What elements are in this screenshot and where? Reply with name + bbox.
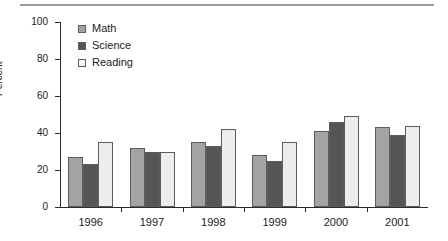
x-label-1998: 1998 <box>183 216 243 228</box>
legend-item-science: Science <box>78 38 133 53</box>
x-label-2001: 2001 <box>367 216 427 228</box>
bar-reading-1999 <box>282 142 297 207</box>
bar-math-1997 <box>130 148 145 207</box>
y-tick-label-60: 60 <box>14 91 48 101</box>
bar-science-2001 <box>390 135 405 207</box>
legend-item-reading: Reading <box>78 55 133 70</box>
x-tick-1997 <box>121 208 122 212</box>
y-tick-label-20: 20 <box>14 165 48 175</box>
y-tick-label-40: 40 <box>14 128 48 138</box>
bar-reading-1996 <box>98 142 113 207</box>
bar-math-1996 <box>68 157 83 207</box>
legend-label-reading: Reading <box>92 57 133 68</box>
legend-label-math: Math <box>92 23 116 34</box>
legend-swatch-science-icon <box>78 42 86 50</box>
x-tick-1998 <box>183 208 184 212</box>
x-label-1996: 1996 <box>61 216 121 228</box>
legend-label-science: Science <box>92 40 131 51</box>
legend-item-math: Math <box>78 21 133 36</box>
y-tick-label-80: 80 <box>14 54 48 64</box>
bar-reading-1997 <box>160 152 175 208</box>
bar-science-2000 <box>329 122 344 207</box>
x-tick-2000 <box>305 208 306 212</box>
x-label-1999: 1999 <box>245 216 305 228</box>
y-tick-0 <box>55 207 60 208</box>
bar-math-2000 <box>314 131 329 207</box>
bar-science-1998 <box>206 146 221 207</box>
x-label-2000: 2000 <box>306 216 366 228</box>
legend-swatch-reading-icon <box>78 59 86 67</box>
y-axis-title: Percent <box>0 62 4 96</box>
bar-reading-2001 <box>405 126 420 207</box>
bar-science-1996 <box>83 164 98 207</box>
legend-swatch-math-icon <box>78 25 86 33</box>
bar-science-1997 <box>145 152 160 208</box>
x-tick-2001 <box>367 208 368 212</box>
bar-math-1998 <box>191 142 206 207</box>
x-tick-1999 <box>244 208 245 212</box>
bar-chart-figure: Percent 020406080100 1996199719981999200… <box>0 0 448 241</box>
y-tick-label-100: 100 <box>14 17 48 27</box>
bar-math-2001 <box>375 127 390 207</box>
top-divider <box>20 4 434 6</box>
bar-reading-2000 <box>344 116 359 207</box>
x-label-1997: 1997 <box>122 216 182 228</box>
bar-science-1999 <box>267 161 282 207</box>
chart-legend: Math Science Reading <box>78 21 133 72</box>
bar-reading-1998 <box>221 129 236 207</box>
bar-math-1999 <box>252 155 267 207</box>
y-tick-label-0: 0 <box>14 202 48 212</box>
